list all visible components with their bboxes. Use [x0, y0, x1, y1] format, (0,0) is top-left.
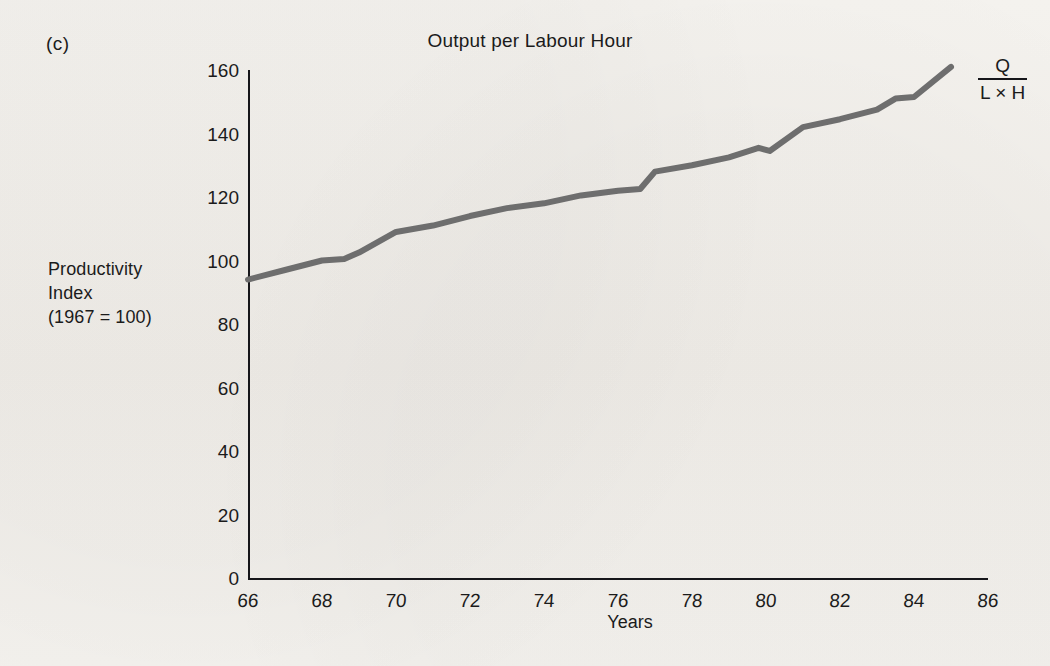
data-series-layer	[0, 0, 1050, 666]
series-line	[248, 67, 951, 280]
figure-output-per-labour-hour: (c) Output per Labour Hour Productivity …	[0, 0, 1050, 666]
plot-area: 020406080100120140160 666870727476788082…	[248, 70, 988, 580]
